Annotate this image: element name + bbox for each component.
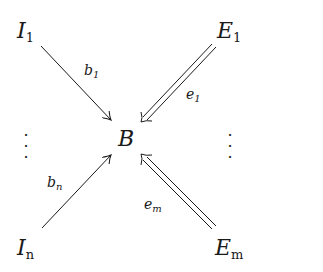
diagram-canvas: I1 E1 B In Em b1 e1 bn em ··· ···	[0, 0, 323, 272]
arrow-em	[141, 154, 216, 229]
arrow-b1	[41, 46, 111, 120]
arrows-layer	[0, 0, 323, 272]
node-em: Em	[215, 237, 243, 261]
node-in: In	[17, 237, 34, 261]
arrow-e1	[141, 44, 216, 122]
label-bn: bn	[47, 175, 62, 192]
node-b: B	[118, 128, 134, 150]
label-b1: b1	[84, 63, 99, 80]
vertical-ellipsis-right: ···	[226, 130, 234, 163]
node-i1: I1	[17, 20, 34, 44]
vertical-ellipsis-left: ···	[22, 130, 30, 163]
label-em: em	[144, 197, 162, 214]
label-e1: e1	[186, 87, 201, 104]
node-e1: E1	[217, 20, 241, 44]
